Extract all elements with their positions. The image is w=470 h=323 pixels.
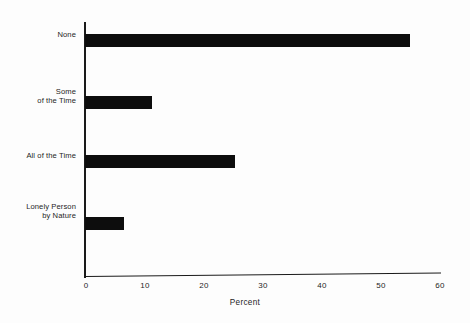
x-tick-label: 30 [258,281,267,290]
x-axis-line [85,273,441,277]
category-label: Lonely Person by Nature [26,202,76,221]
x-tick-label: 10 [140,281,149,290]
bar [85,96,152,109]
category-label: All of the Time [26,151,76,160]
category-label: None [57,30,76,39]
x-tick-label: 50 [376,281,385,290]
category-label-line2: by Nature [26,211,76,220]
bar [85,155,235,168]
category-label-line1: None [57,30,76,39]
category-label-line1: Some [37,87,76,96]
y-axis-line [84,22,86,278]
category-label-line1: All of the Time [26,151,76,160]
category-label-line1: Lonely Person [26,202,76,211]
x-axis-title-text: Percent [230,298,260,307]
x-tick-label: 0 [84,281,89,290]
x-tick-label: 20 [199,281,208,290]
category-label: Some of the Time [37,87,76,106]
x-tick-label: 60 [435,281,444,290]
bar [85,217,124,230]
bar-chart: None Some of the Time All of the Time Lo… [0,0,470,323]
category-label-line2: of the Time [37,96,76,105]
bar [85,34,410,47]
x-axis-title: Percent [0,298,470,307]
x-tick-label: 40 [317,281,326,290]
